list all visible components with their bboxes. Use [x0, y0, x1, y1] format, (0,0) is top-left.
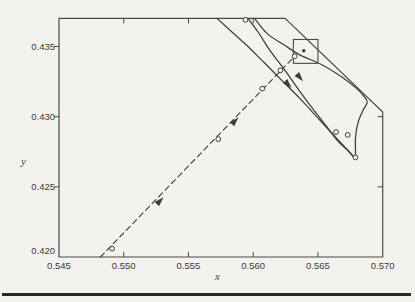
cycle-branch-right-marker	[353, 155, 358, 160]
y-tick-label: 0.430	[31, 111, 55, 122]
phase-portrait-figure: 0.5450.5500.5550.5600.5650.5700.4200.425…	[0, 0, 415, 302]
incoming-trajectory-marker	[278, 68, 283, 73]
incoming-trajectory-marker	[292, 54, 297, 59]
x-tick-label: 0.550	[112, 260, 136, 271]
x-tick-label: 0.565	[306, 260, 330, 271]
cycle-branch-left-marker	[345, 133, 350, 138]
phase-plot-canvas: 0.5450.5500.5550.5600.5650.5700.4200.425…	[0, 0, 415, 302]
inset-zoom-box	[293, 39, 318, 63]
y-tick-label: 0.435	[31, 41, 55, 52]
y-axis-label: y	[21, 155, 26, 167]
incoming-trajectory-marker	[216, 137, 221, 142]
bottom-rule	[2, 293, 411, 296]
y-tick-label: 0.425	[31, 181, 55, 192]
direction-arrow	[155, 195, 166, 206]
x-tick-label: 0.570	[371, 260, 395, 271]
direction-arrow	[295, 72, 306, 83]
x-axis-label: x	[215, 270, 220, 282]
cycle-branch-left-marker	[243, 17, 248, 22]
y-tick-label: 0.420	[31, 245, 55, 256]
incoming-trajectory-marker	[110, 246, 115, 251]
incoming-trajectory-marker	[260, 86, 265, 91]
x-tick-label: 0.545	[47, 260, 71, 271]
incoming-trajectory-path	[100, 56, 294, 257]
x-tick-label: 0.560	[241, 260, 265, 271]
plot-frame	[59, 18, 383, 257]
outer-trajectory-marker	[334, 130, 339, 135]
x-tick-label: 0.555	[177, 260, 201, 271]
fixed-point-dot	[302, 49, 306, 53]
direction-arrow	[230, 115, 241, 126]
